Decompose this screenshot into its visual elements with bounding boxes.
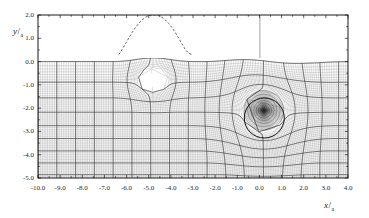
y-tick-label: 2.0	[8, 11, 34, 19]
x-tick-label: -10.0	[26, 184, 50, 192]
x-tick-label: -6.0	[115, 184, 139, 192]
y-tick-label: 0.0	[8, 58, 34, 66]
x-tick-label: -4.0	[159, 184, 183, 192]
x-tick-label: 2.0	[292, 184, 316, 192]
x-tick-label: -2.0	[203, 184, 227, 192]
x-tick-label: -3.0	[181, 184, 205, 192]
x-axis-title: x/a	[324, 200, 334, 212]
figure-canvas: y/a x/a 2.01.00.0-1.0-2.0-3.0-4.0-5.0 -1…	[0, 0, 369, 218]
y-tick-label: -2.0	[8, 104, 34, 112]
y-tick-label: -4.0	[8, 151, 34, 159]
x-tick-label: 0.0	[247, 184, 271, 192]
x-tick-label: -9.0	[48, 184, 72, 192]
x-tick-label: -7.0	[92, 184, 116, 192]
x-tick-label: 3.0	[314, 184, 338, 192]
y-tick-label: -5.0	[8, 174, 34, 182]
x-axis-title-den: a	[332, 206, 335, 212]
x-tick-label: 4.0	[336, 184, 360, 192]
x-tick-label: -5.0	[137, 184, 161, 192]
y-tick-label: 1.0	[8, 34, 34, 42]
y-tick-label: -1.0	[8, 81, 34, 89]
x-tick-label: 1.0	[270, 184, 294, 192]
x-tick-label: -1.0	[225, 184, 249, 192]
y-tick-label: -3.0	[8, 127, 34, 135]
x-axis-title-num: x	[324, 200, 328, 210]
x-tick-label: -8.0	[70, 184, 94, 192]
